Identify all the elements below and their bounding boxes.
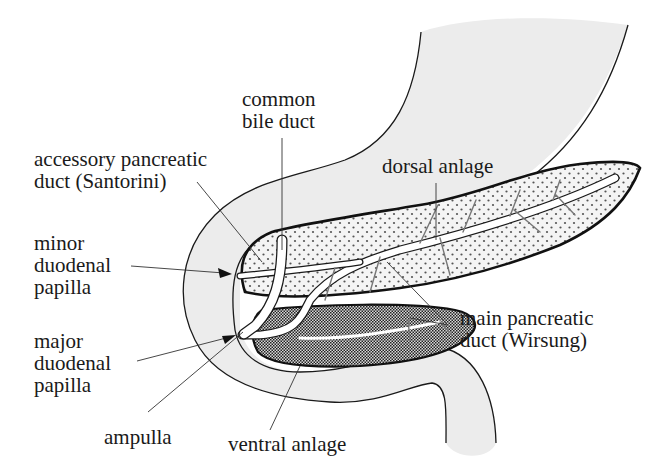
label-ampulla: ampulla (104, 426, 172, 448)
label-major-duodenal-papilla: major duodenal papilla (34, 330, 111, 396)
label-common-bile-duct: common bile duct (242, 88, 316, 132)
pancreas-diagram: common bile duct accessory pancreatic du… (0, 0, 647, 476)
label-dorsal-anlage: dorsal anlage (382, 155, 493, 177)
label-ventral-anlage: ventral anlage (228, 433, 346, 455)
label-minor-duodenal-papilla: minor duodenal papilla (34, 232, 111, 298)
label-accessory-pancreatic-duct: accessory pancreatic duct (Santorini) (34, 148, 207, 192)
label-main-pancreatic-duct: main pancreatic duct (Wirsung) (460, 307, 594, 351)
